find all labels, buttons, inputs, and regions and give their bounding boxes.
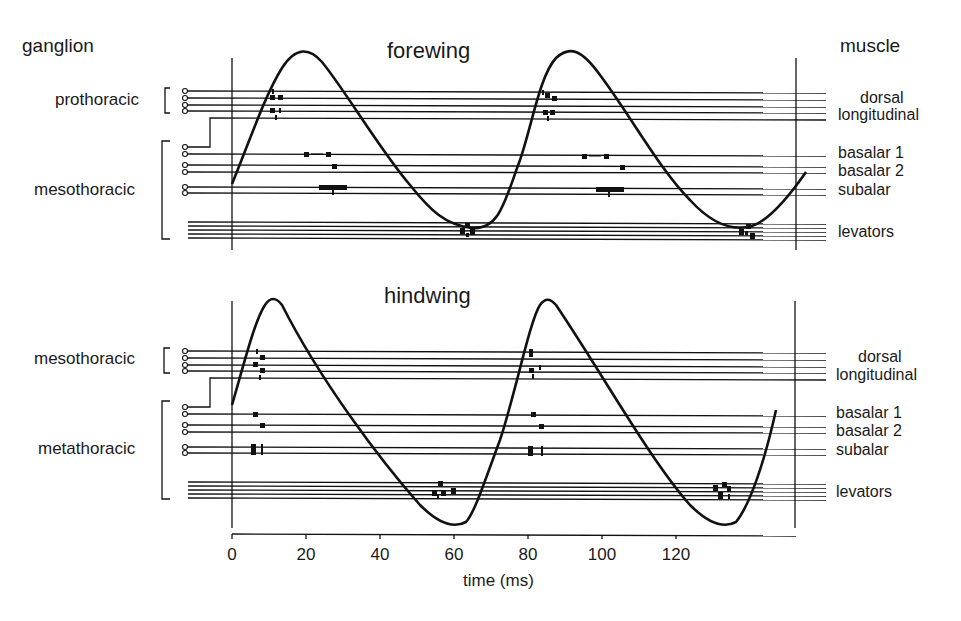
diagram-canvas (0, 0, 961, 621)
metathoracic-bracket (162, 401, 170, 499)
hindwing-neuron-somata (183, 349, 188, 456)
forewing-neuron-somata (183, 89, 188, 196)
forewing-trace (232, 51, 806, 228)
mesothoracic-bracket (162, 141, 170, 239)
prothoracic-bracket (165, 88, 170, 113)
hindwing-mesothoracic-bracket (164, 348, 170, 373)
x-axis-line (232, 534, 796, 536)
